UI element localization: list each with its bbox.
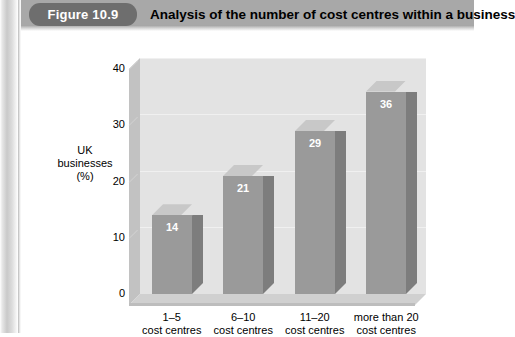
y-tick-label-40: 40 [99, 62, 125, 74]
figure-title: Analysis of the number of cost centres w… [150, 4, 466, 26]
bar-top-face [366, 81, 406, 92]
y-axis-title-line: businesses [47, 157, 123, 170]
bar: 21 [223, 165, 263, 294]
bar: 29 [295, 120, 335, 294]
x-axis-label-line: more than 20 [341, 311, 431, 324]
bar-top-face [152, 204, 192, 215]
bar: 36 [366, 81, 406, 295]
x-axis-label-line: cost centres [341, 324, 431, 337]
bar-side-face [335, 131, 346, 294]
bar-value-label: 14 [152, 221, 192, 233]
bar-value-label: 36 [366, 98, 406, 110]
y-axis-title: UKbusinesses(%) [47, 144, 123, 183]
figure-number-badge: Figure 10.9 [29, 3, 137, 26]
gridline-40 [140, 58, 426, 59]
y-tick-label-0: 0 [99, 287, 125, 299]
bar-side-face [192, 215, 203, 294]
bar-front-face [295, 131, 335, 294]
bar-top-face [295, 120, 335, 131]
page-spine [0, 0, 18, 333]
bar-top-face [223, 165, 263, 176]
figure-number-label: Figure 10.9 [48, 7, 119, 22]
bar-front-face [366, 92, 406, 295]
x-axis-label: more than 20cost centres [341, 311, 431, 337]
bar-side-face [406, 92, 417, 295]
bar-value-label: 29 [295, 137, 335, 149]
bar-chart-plot: 010203040 UKbusinesses(%) 14212936 1–5co… [21, 31, 474, 333]
plot-floor-front-edge [129, 303, 415, 306]
bar: 14 [152, 204, 192, 294]
bar-side-face [263, 176, 274, 294]
y-tick-label-30: 30 [99, 118, 125, 130]
bar-value-label: 21 [223, 182, 263, 194]
y-axis-title-line: (%) [47, 170, 123, 183]
y-tick-label-10: 10 [99, 231, 125, 243]
y-axis-title-line: UK [47, 144, 123, 157]
chart-area: 010203040 UKbusinesses(%) 14212936 1–5co… [21, 31, 474, 333]
